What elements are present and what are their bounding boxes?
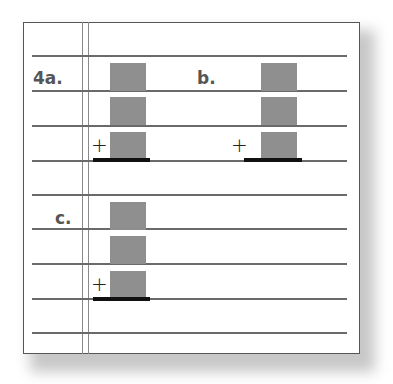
plus-sign: + [91, 135, 108, 155]
rule-line [32, 90, 347, 92]
problem-label-4a: 4a. [33, 68, 63, 88]
answer-box[interactable] [110, 97, 146, 125]
rule-line [32, 125, 347, 127]
problem-label-c: c. [55, 208, 72, 228]
answer-box[interactable] [110, 236, 146, 264]
sum-line [244, 158, 302, 162]
answer-box[interactable] [110, 132, 146, 160]
margin-line-right [88, 22, 89, 354]
rule-line [32, 263, 347, 265]
answer-box[interactable] [261, 132, 297, 160]
margin-line-left [82, 22, 83, 354]
sum-line [93, 158, 150, 162]
rule-line [32, 298, 347, 300]
answer-box[interactable] [261, 63, 297, 91]
plus-sign: + [231, 135, 248, 155]
rule-line [32, 194, 347, 196]
rule-line [32, 332, 347, 334]
plus-sign: + [91, 274, 108, 294]
sum-line [93, 297, 150, 301]
worksheet-sheet [23, 22, 360, 354]
rule-line [32, 55, 347, 57]
answer-box[interactable] [110, 202, 146, 230]
answer-box[interactable] [110, 63, 146, 91]
answer-box[interactable] [110, 271, 146, 299]
problem-label-b: b. [197, 68, 216, 88]
answer-box[interactable] [261, 97, 297, 125]
rule-line [32, 228, 347, 230]
